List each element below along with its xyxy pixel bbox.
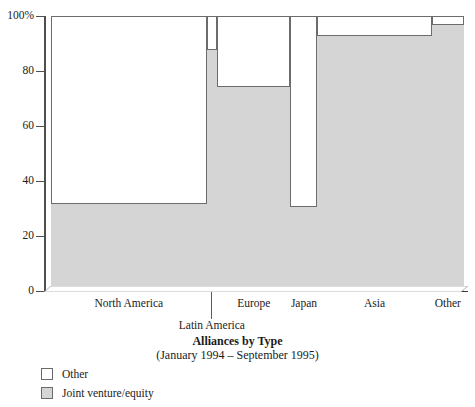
bar-north-america (51, 16, 207, 291)
legend-label-joint-venture: Joint venture/equity (62, 387, 154, 399)
plot-area (51, 16, 464, 291)
y-tick-label: 80 (0, 65, 34, 77)
legend-item-other: Other (41, 364, 154, 383)
bar-fill-latin-america (207, 49, 217, 291)
x-label-other: Other (393, 297, 475, 309)
y-tick-60: 60 (0, 126, 46, 127)
chart-title: Alliances by Type (0, 334, 475, 348)
bar-fill-europe (217, 86, 290, 291)
chart-legend: Other Joint venture/equity (41, 364, 154, 402)
y-tick-mark (36, 181, 45, 182)
chart-subtitle: (January 1994 – September 1995) (0, 348, 475, 363)
bar-fill-asia (317, 35, 431, 291)
y-tick-mark (36, 71, 45, 72)
bar-europe (217, 16, 290, 291)
y-tick-100: 100% (0, 16, 46, 17)
y-tick-label: 0 (0, 285, 34, 297)
bar-latin-america (207, 16, 217, 291)
y-tick-mark (36, 126, 45, 127)
y-tick-0: 0 (0, 291, 46, 292)
y-tick-label: 60 (0, 120, 34, 132)
y-tick-mark (36, 291, 45, 292)
legend-swatch-other-icon (41, 368, 53, 380)
y-tick-label: 40 (0, 175, 34, 187)
bar-asia (317, 16, 431, 291)
y-axis-line (44, 16, 46, 292)
legend-item-joint-venture: Joint venture/equity (41, 383, 154, 402)
y-tick-label: 20 (0, 230, 34, 242)
y-tick-mark (36, 16, 45, 17)
y-tick-20: 20 (0, 236, 46, 237)
bar-japan (290, 16, 317, 291)
legend-label-other: Other (62, 368, 88, 380)
y-tick-label: 100% (0, 10, 34, 22)
bar-fill-japan (290, 206, 317, 291)
latin-america-leader-line (211, 292, 212, 319)
bar-fill-north-america (51, 203, 207, 291)
x-axis-line (44, 291, 468, 292)
chart-figure: 100%806040200 North AmericaLatin America… (0, 0, 475, 407)
y-tick-40: 40 (0, 181, 46, 182)
title-block: Alliances by Type (January 1994 – Septem… (0, 334, 475, 363)
x-label-latin-america: Latin America (157, 319, 267, 331)
bar-other (432, 16, 464, 291)
y-tick-80: 80 (0, 71, 46, 72)
legend-swatch-joint-venture-icon (41, 387, 53, 399)
y-tick-mark (36, 236, 45, 237)
bar-fill-other (432, 24, 464, 291)
x-label-north-america: North America (74, 297, 184, 309)
